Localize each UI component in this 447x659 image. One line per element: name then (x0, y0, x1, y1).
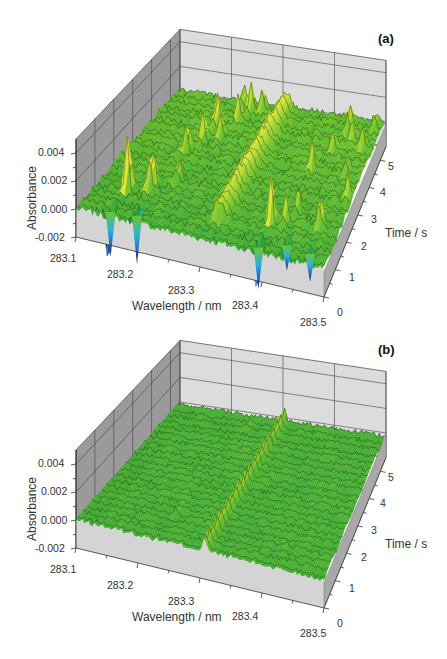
surface-plot-a (0, 0, 447, 320)
surface-plot-b (0, 311, 447, 631)
chart-panel-a: (a) Absorbance Wavelength / nm Time / s … (0, 0, 447, 320)
chart-panel-b: (b) Absorbance Wavelength / nm Time / s … (0, 311, 447, 631)
